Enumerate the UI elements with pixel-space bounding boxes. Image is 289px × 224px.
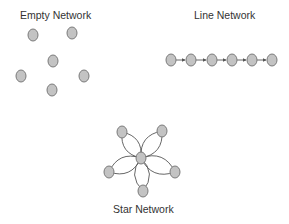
- star-network-leaf-node: [170, 166, 180, 178]
- edges-layer: [109, 60, 266, 191]
- empty-network-node: [67, 27, 77, 39]
- network-diagram-canvas: [0, 0, 289, 224]
- empty-network-node: [79, 70, 89, 82]
- star-network-leaf-node: [117, 126, 127, 138]
- line-network-node: [267, 54, 277, 66]
- line-network-node: [207, 54, 217, 66]
- empty-network-node: [47, 84, 57, 96]
- empty-network-node: [16, 70, 26, 82]
- star-network-leaf-node: [138, 185, 148, 197]
- empty-network-node: [48, 55, 58, 67]
- star-network-hub-node: [136, 152, 146, 164]
- line-network-node: [186, 54, 196, 66]
- star-network-leaf-node: [104, 166, 114, 178]
- line-network-node: [227, 54, 237, 66]
- line-network-node: [166, 54, 176, 66]
- nodes-layer: [16, 27, 277, 197]
- star-network-leaf-node: [157, 125, 167, 137]
- empty-network-node: [28, 29, 38, 41]
- line-network-node: [247, 54, 257, 66]
